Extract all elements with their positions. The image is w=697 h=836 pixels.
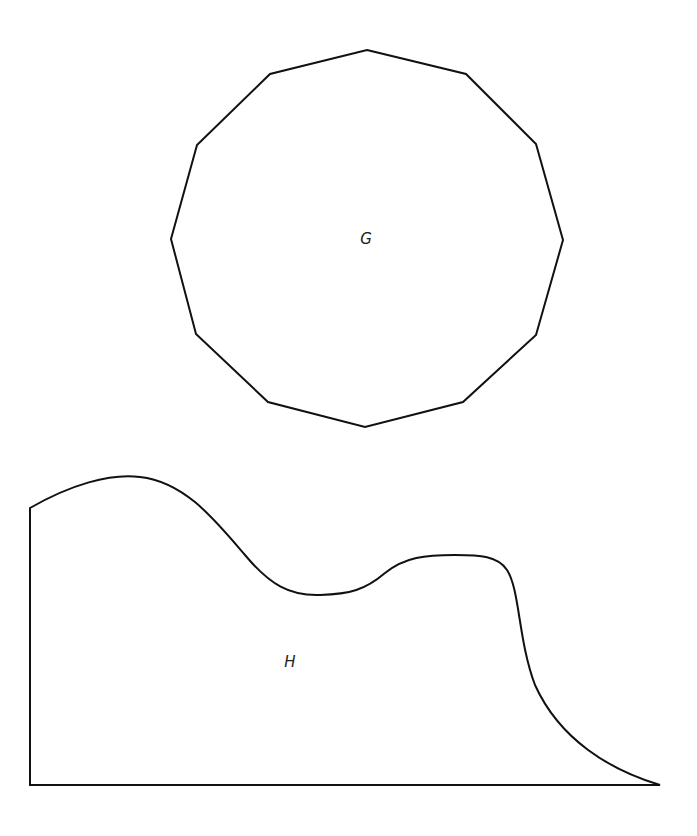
- label-h: H: [284, 653, 295, 671]
- label-g: G: [360, 230, 372, 248]
- region-h: [30, 476, 660, 785]
- diagram-canvas: G H: [0, 0, 697, 836]
